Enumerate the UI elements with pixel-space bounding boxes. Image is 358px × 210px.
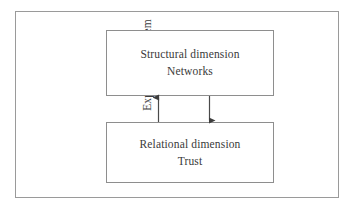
structural-dimension-box: Structural dimension Networks (106, 30, 274, 96)
structural-dimension-subtitle: Networks (167, 63, 213, 80)
relational-dimension-title: Relational dimension (139, 136, 240, 153)
relational-dimension-subtitle: Trust (178, 153, 203, 170)
structural-dimension-title: Structural dimension (140, 46, 239, 63)
relational-dimension-box: Relational dimension Trust (106, 122, 274, 183)
diagram-root: Expectation system Structural dimension … (0, 0, 358, 210)
